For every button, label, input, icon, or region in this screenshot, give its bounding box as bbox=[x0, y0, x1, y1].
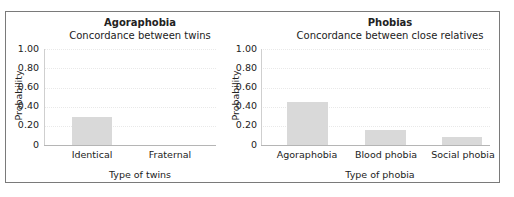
y-axis bbox=[261, 49, 262, 146]
bar-agoraphobia bbox=[287, 102, 328, 145]
gridline bbox=[261, 68, 490, 69]
chart-phobias-relatives: Phobias Concordance between close relati… bbox=[0, 0, 514, 197]
chart-title: Phobias bbox=[320, 17, 460, 28]
x-category: Agoraphobia bbox=[272, 149, 342, 160]
y-tick: 1.00 bbox=[231, 43, 257, 54]
x-axis bbox=[261, 145, 490, 146]
y-tick: 0.40 bbox=[231, 100, 257, 111]
bar-social-phobia bbox=[442, 137, 482, 145]
y-tick: 0.80 bbox=[231, 62, 257, 73]
y-tick: 0.60 bbox=[231, 81, 257, 92]
bar-blood-phobia bbox=[365, 130, 406, 145]
y-tick: 0 bbox=[231, 139, 257, 150]
gridline bbox=[261, 49, 490, 50]
x-axis-label: Type of phobia bbox=[320, 169, 440, 180]
x-category: Social phobia bbox=[425, 149, 501, 160]
chart-subtitle: Concordance between close relatives bbox=[290, 30, 490, 41]
gridline bbox=[261, 88, 490, 89]
y-axis-label: Probability bbox=[230, 66, 241, 126]
y-tick: 0.20 bbox=[231, 119, 257, 130]
x-category: Blood phobia bbox=[350, 149, 422, 160]
